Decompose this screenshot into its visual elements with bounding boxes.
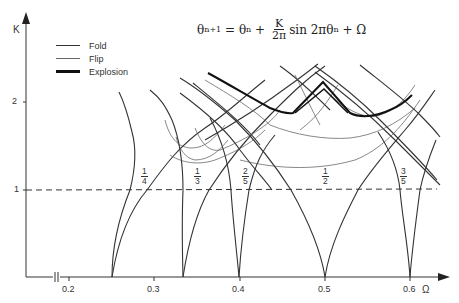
x-tick-0.5: 0.5 bbox=[318, 284, 331, 294]
legend-item-flip: Flip bbox=[56, 52, 128, 65]
legend-label: Flip bbox=[89, 54, 104, 64]
fold-curves bbox=[112, 64, 440, 277]
x-tick-0.2: 0.2 bbox=[62, 284, 75, 294]
x-axis-arrow-icon bbox=[438, 273, 450, 281]
map-equation: θn+1 = θn + K 2π sin 2πθn + Ω bbox=[197, 18, 366, 41]
legend-label: Explosion bbox=[89, 67, 128, 77]
tongue-label-1-2: 1 2 bbox=[322, 167, 329, 186]
tongue-label-3-5: 3 5 bbox=[400, 167, 407, 186]
equation-plus-omega: + Ω bbox=[339, 23, 367, 37]
tongue-label-1-4: 1 4 bbox=[141, 167, 148, 186]
equation-equals: = bbox=[221, 23, 239, 37]
y-tick-1: 1 bbox=[14, 184, 19, 194]
x-tick-0.4: 0.4 bbox=[232, 284, 245, 294]
legend: Fold Flip Explosion bbox=[56, 39, 128, 78]
equation-lhs-sub: n+1 bbox=[204, 25, 221, 34]
ratio-den: 5 bbox=[243, 177, 248, 186]
tongue-label-1-3: 1 3 bbox=[194, 167, 201, 186]
x-tick-0.6: 0.6 bbox=[403, 284, 416, 294]
equation-plus: + bbox=[251, 23, 269, 37]
ratio-den: 4 bbox=[142, 177, 147, 186]
x-tick-0.3: 0.3 bbox=[147, 284, 160, 294]
equation-fraction: K 2π bbox=[272, 18, 286, 41]
flip-line-icon bbox=[56, 58, 80, 59]
y-axis-label: K bbox=[13, 24, 20, 35]
equation-term1: θ bbox=[239, 23, 246, 37]
legend-label: Fold bbox=[89, 41, 107, 51]
x-axis-label: Ω bbox=[422, 284, 429, 295]
fold-line-icon bbox=[56, 45, 80, 46]
y-axis-arrow-icon bbox=[22, 12, 30, 24]
legend-item-fold: Fold bbox=[56, 39, 128, 52]
equation-lhs: θ bbox=[197, 23, 204, 37]
ratio-den: 3 bbox=[195, 177, 200, 186]
ratio-den: 2 bbox=[323, 177, 328, 186]
tongue-label-2-5: 2 5 bbox=[242, 167, 249, 186]
y-tick-2: 2 bbox=[12, 96, 17, 106]
equation-sin: sin 2πθ bbox=[289, 23, 333, 37]
legend-item-explosion: Explosion bbox=[56, 65, 128, 78]
fraction-denominator: 2π bbox=[272, 30, 286, 41]
ratio-den: 5 bbox=[401, 177, 406, 186]
explosion-line-icon bbox=[56, 70, 80, 72]
explosion-curve bbox=[208, 73, 412, 116]
